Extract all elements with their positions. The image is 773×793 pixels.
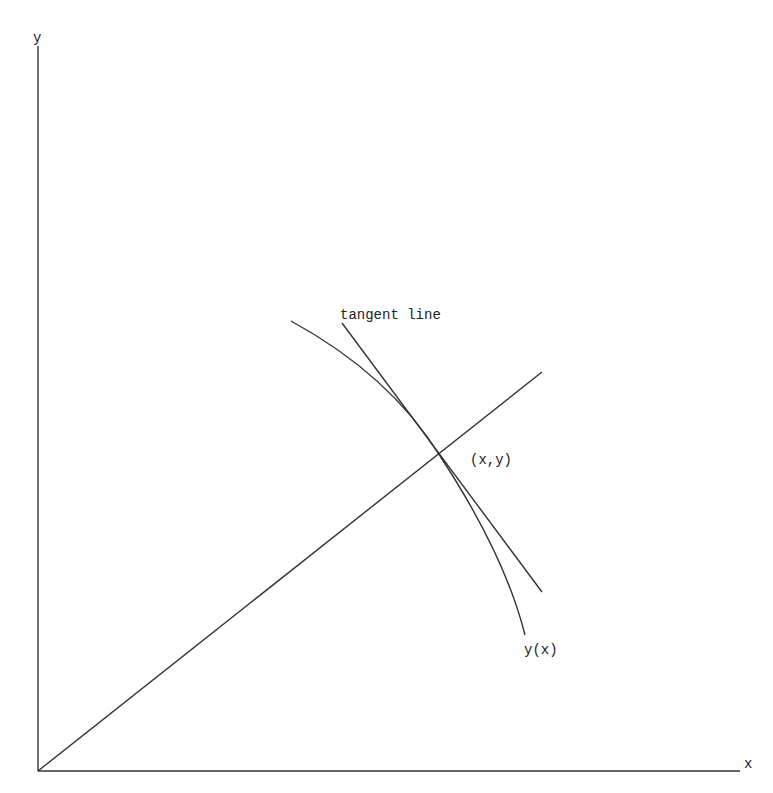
tangent-line-label: tangent line [340,307,441,323]
diagram-canvas: y x tangent line (x,y) y(x) [0,0,773,793]
x-axis-label: x [744,756,752,772]
ray-from-origin [38,372,542,771]
point-label: (x,y) [470,452,512,468]
y-axis-label: y [33,30,41,46]
curve-label: y(x) [524,642,558,658]
